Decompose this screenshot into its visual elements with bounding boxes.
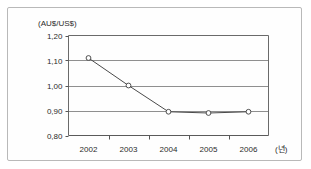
line-chart: (AU$/US$) 0,800,901,001,101,20 200220032…	[0, 0, 311, 169]
plot-frame	[69, 36, 269, 136]
data-point-marker	[86, 56, 91, 61]
chart-figure: (AU$/US$) 0,800,901,001,101,20 200220032…	[0, 0, 311, 169]
data-point-marker	[166, 109, 171, 114]
y-tick-label: 1,00	[47, 82, 63, 91]
x-tick-label: 2005	[200, 145, 218, 154]
y-axis-tick-labels: 0,800,901,001,101,20	[47, 32, 63, 141]
data-point-marker	[206, 111, 211, 116]
y-tick-label: 1,10	[47, 57, 63, 66]
x-tick-label: 2006	[240, 145, 258, 154]
data-point-marker	[246, 109, 251, 114]
data-point-markers	[86, 56, 251, 116]
data-series-line	[89, 58, 249, 113]
x-tick-label: 2004	[160, 145, 178, 154]
data-point-marker	[126, 83, 131, 88]
x-tick-label: 2002	[80, 145, 98, 154]
y-tick-label: 0,80	[47, 132, 63, 141]
x-axis-unit-label: (년)	[275, 144, 288, 154]
y-tick-label: 0,90	[47, 107, 63, 116]
y-axis-unit-label: (AU$/US$)	[38, 19, 77, 28]
x-tick-label: 2003	[120, 145, 138, 154]
x-axis-tick-labels: 20022003200420052006	[80, 145, 258, 154]
y-tick-label: 1,20	[47, 32, 63, 41]
x-axis-ticks	[110, 136, 230, 140]
gridlines	[69, 61, 269, 112]
